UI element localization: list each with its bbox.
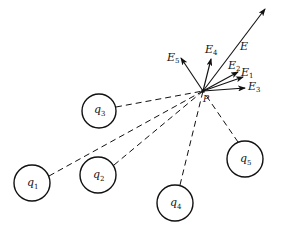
label-E5: E5 <box>166 51 180 65</box>
q3-sub: 3 <box>101 110 105 118</box>
charge-q4: q4 <box>157 185 193 221</box>
charge-q2: q2 <box>80 157 116 193</box>
electric-field-superposition-diagram: q1 q2 q3 q4 q5 P E E5 E4 E2 E1 E3 <box>0 0 281 227</box>
label-E4: E4 <box>204 43 218 57</box>
connector-q4 <box>180 91 203 185</box>
charge-q5: q5 <box>227 141 263 177</box>
label-E: E <box>239 40 248 53</box>
q4-sub: 4 <box>177 203 182 211</box>
point-P <box>201 89 205 93</box>
q2-label: q <box>93 168 100 181</box>
label-E2: E2 <box>227 59 241 73</box>
vector-E5 <box>181 58 203 91</box>
connector-q2 <box>114 91 203 165</box>
q1-label: q <box>27 176 34 189</box>
charge-q3: q3 <box>82 94 116 128</box>
charge-q1: q1 <box>14 165 50 201</box>
q1-sub: 1 <box>34 183 38 191</box>
q3-label: q <box>94 103 101 116</box>
vector-E2 <box>203 72 238 91</box>
dashed-connectors <box>49 91 238 185</box>
q2-sub: 2 <box>100 175 104 183</box>
label-E3: E3 <box>247 80 261 94</box>
connector-q3 <box>116 91 203 107</box>
point-P-label: P <box>202 94 210 104</box>
q5-sub: 5 <box>247 159 251 167</box>
connector-q1 <box>49 91 203 176</box>
q4-label: q <box>170 196 177 209</box>
q5-label: q <box>240 152 247 165</box>
label-E1: E1 <box>240 66 254 80</box>
